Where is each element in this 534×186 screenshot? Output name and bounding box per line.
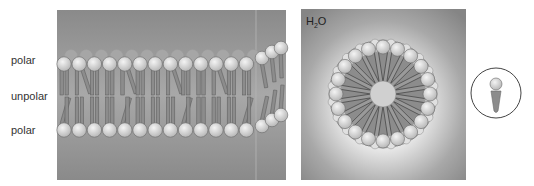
bilayer-tail (60, 68, 63, 95)
bilayer-head-bottom (133, 123, 147, 137)
bilayer-head-top (118, 57, 132, 71)
bilayer-head-bottom (194, 123, 208, 137)
micelle-lipid-head (414, 59, 428, 73)
bilayer-head-bottom (239, 123, 253, 137)
bilayer-tail (202, 97, 205, 124)
bilayer-head-top (194, 57, 208, 71)
bilayer-tail (136, 68, 139, 95)
micelle-lipid-head (423, 87, 437, 101)
micelle-lipid-head (329, 87, 343, 101)
bilayer-tail (166, 68, 169, 95)
bilayer-head-top (148, 57, 162, 71)
bilayer-tail (141, 97, 144, 124)
micelle-lipid-head (338, 115, 352, 129)
bilayer-tail (227, 97, 230, 124)
bilayer-tail (279, 52, 283, 78)
label-polar-top: polar (11, 54, 36, 66)
bilayer-tail (75, 97, 78, 124)
bilayer-tail (197, 97, 200, 124)
micelle-lipid-head (421, 72, 435, 86)
micelle-lipid-head (361, 42, 375, 56)
bilayer-head-top (274, 41, 288, 55)
bilayer-head-bottom (209, 123, 223, 137)
micelle-lipid-head (421, 102, 435, 116)
bilayer-head-top (239, 57, 253, 71)
bilayer-tail (187, 68, 190, 95)
bilayer-tail (65, 97, 68, 124)
micelle (328, 39, 438, 149)
bilayer-tail (75, 68, 78, 95)
bilayer-tail (242, 68, 245, 95)
bilayer-tail (95, 68, 98, 95)
micelle-lipid-head (331, 72, 345, 86)
bilayer-tail (156, 68, 159, 95)
bilayer-tail (156, 97, 159, 124)
bilayer-tail (232, 97, 235, 124)
bilayer-head-bottom (72, 123, 86, 137)
bilayer-tail (106, 97, 109, 124)
micelle-lipid-head (338, 59, 352, 73)
bilayer-tail (65, 68, 68, 95)
label-polar-bottom: polar (11, 124, 36, 136)
bilayer-head-bottom (163, 123, 177, 137)
bilayer-head-top (209, 57, 223, 71)
bilayer-tail (247, 97, 250, 124)
diagram-canvas: polar unpolar polar H2O (0, 0, 534, 186)
bilayer-tail (232, 68, 235, 95)
bilayer-head-top (102, 57, 116, 71)
micelle-lipid-head (348, 49, 362, 63)
label-unpolar: unpolar (11, 90, 48, 102)
bilayer-tail (111, 97, 114, 124)
bilayer-tail (126, 97, 129, 124)
micelle-lipid-head (404, 125, 418, 139)
bilayer-head-top (87, 57, 101, 71)
bilayer-tail (95, 97, 98, 124)
bilayer-head-top (133, 57, 147, 71)
micelle-lipid-head (348, 125, 362, 139)
bilayer-head-top (224, 57, 238, 71)
bilayer-tail (121, 68, 124, 95)
bilayer-head-top (163, 57, 177, 71)
bilayer-tail (136, 97, 139, 124)
inset-lipid-head (490, 78, 502, 90)
micelle-lipid-head (391, 132, 405, 146)
bilayer-head-top (57, 57, 71, 71)
micelle-lipid-head (331, 102, 345, 116)
bilayer-head-bottom (148, 123, 162, 137)
bilayer-tail (151, 97, 154, 124)
bilayer-tail (141, 68, 144, 95)
bilayer-head-bottom (87, 123, 101, 137)
bilayer-tail (106, 68, 109, 95)
bilayer-head-bottom (178, 123, 192, 137)
bilayer-head-bottom (224, 123, 238, 137)
bilayer-tail (217, 97, 220, 124)
bilayer-tail (90, 97, 93, 124)
single-lipid-inset (471, 68, 521, 118)
bilayer-tail (182, 68, 185, 95)
micelle-lipid-head (361, 132, 375, 146)
micelle-lipid-head (414, 115, 428, 129)
bilayer-tail (197, 68, 200, 95)
micelle-lipid-head (404, 49, 418, 63)
bilayer-tail (111, 68, 114, 95)
bilayer-tail (80, 97, 83, 124)
bilayer-head-bottom (274, 108, 288, 122)
bilayer-tail (171, 97, 174, 124)
bilayer-tail (151, 68, 154, 95)
bilayer-tail (227, 68, 230, 95)
micelle-center (370, 81, 396, 107)
bilayer-tail (212, 97, 215, 124)
micelle-panel: H2O (301, 9, 466, 180)
micelle-lipid-head (391, 42, 405, 56)
bilayer-head-bottom (102, 123, 116, 137)
micelle-lipid-head (376, 134, 390, 148)
bilayer-tail (166, 97, 169, 124)
bilayer-panel (57, 10, 288, 180)
bilayer-head-top (72, 57, 86, 71)
bilayer-tail (247, 68, 250, 95)
bilayer-head-top (178, 57, 192, 71)
bilayer-head-bottom (57, 123, 71, 137)
micelle-lipid-head (376, 40, 390, 54)
bilayer-tail (202, 68, 205, 95)
bilayer-tail (212, 68, 215, 95)
